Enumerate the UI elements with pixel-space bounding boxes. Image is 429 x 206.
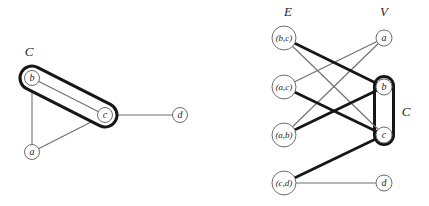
right-bipartite-incidence-label-C: C bbox=[402, 104, 411, 119]
node-label-b: b bbox=[382, 81, 387, 92]
node-label-b: b bbox=[30, 72, 35, 83]
right-bipartite-incidence-label-E: E bbox=[283, 4, 292, 19]
node-label-a: a bbox=[30, 146, 35, 157]
node-label-ac: (a,c) bbox=[276, 82, 293, 92]
node-label-bc: (b,c) bbox=[276, 33, 293, 43]
node-label-ab: (a,b) bbox=[275, 130, 292, 140]
node-label-c: c bbox=[382, 129, 387, 140]
vertex-cover-figure: bcadC(b,c)(a,c)(a,b)(c,d)abcdEVC bbox=[0, 0, 429, 206]
figure-canvas: bcadC(b,c)(a,c)(a,b)(c,d)abcdEVC bbox=[0, 0, 429, 206]
left-graph-with-cover: bcadC bbox=[25, 44, 188, 160]
node-label-c: c bbox=[103, 109, 108, 120]
node-label-cd: (c,d) bbox=[276, 178, 293, 188]
right-bipartite-incidence-label-V: V bbox=[380, 4, 390, 19]
edge-cd-c-covering bbox=[284, 135, 384, 183]
node-label-a: a bbox=[382, 32, 387, 43]
left-graph-with-cover-label-C: C bbox=[25, 44, 34, 59]
right-bipartite-incidence: (b,c)(a,c)(a,b)(c,d)abcdEVC bbox=[272, 4, 411, 195]
